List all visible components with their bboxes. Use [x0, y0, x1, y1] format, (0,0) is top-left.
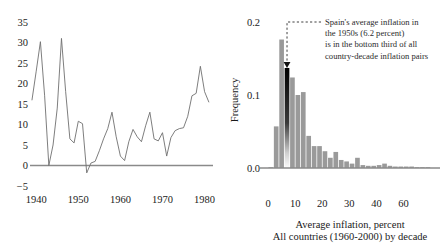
y-tick-label: −5 — [17, 181, 28, 192]
x-tick-label: 10 — [290, 198, 301, 209]
line-chart-svg: −505101520253035 19401950196019701980 — [0, 0, 222, 249]
x-tick-label: 40 — [371, 198, 382, 209]
y-tick-label: 0.1 — [247, 90, 260, 101]
histogram-bar-highlighted — [285, 68, 290, 168]
y-tick-label: 25 — [18, 58, 29, 69]
x-axis-tick-labels: 19401950196019701980 — [26, 194, 215, 205]
histogram-bar — [279, 40, 284, 168]
panel-spain-inflation-timeseries: −505101520253035 19401950196019701980 — [0, 0, 222, 249]
x-tick-label: 60 — [398, 198, 409, 209]
panel-all-countries-histogram: 0.00.10.2 01020304060 Frequency Average … — [222, 0, 444, 249]
histogram-bar — [323, 151, 328, 168]
x-tick-label: 1940 — [26, 194, 47, 205]
x-tick-label: 1970 — [152, 194, 173, 205]
histogram-bar — [339, 160, 344, 168]
annotation-text: Spain's average inflation inthe 1950s (6… — [325, 17, 429, 61]
annotation-line: Spain's average inflation in — [325, 17, 419, 27]
annotation-arrowhead — [284, 62, 291, 68]
x-axis-tick-labels: 01020304060 — [265, 198, 408, 209]
y-tick-label: 0.2 — [247, 17, 260, 28]
histogram-bar — [382, 164, 387, 168]
y-tick-label: 15 — [18, 99, 29, 110]
y-tick-label: 10 — [18, 119, 29, 130]
histogram-chart-svg: 0.00.10.2 01020304060 Frequency Average … — [222, 0, 444, 249]
x-tick-label: 0 — [265, 198, 270, 209]
x-axis-title: Average inflation, percent — [295, 219, 404, 230]
y-tick-label: 0.0 — [247, 163, 260, 174]
histogram-bar — [274, 126, 279, 168]
x-tick-label: 1980 — [194, 194, 215, 205]
x-tick-label: 1960 — [110, 194, 131, 205]
histogram-bar — [296, 95, 301, 168]
x-axis-subtitle: All countries (1960-2000) by decade — [273, 231, 428, 243]
y-tick-label: 30 — [18, 37, 29, 48]
histogram-bar — [344, 161, 349, 168]
y-axis-tick-labels: 0.00.10.2 — [247, 17, 260, 174]
y-tick-label: 20 — [18, 78, 29, 89]
histogram-bar — [306, 136, 311, 168]
annotation-line: country-decade inflation pairs — [325, 51, 429, 61]
histogram-bar — [290, 77, 295, 168]
x-tick-label: 1950 — [68, 194, 89, 205]
histogram-bar — [317, 146, 322, 168]
histogram-bar — [328, 158, 333, 168]
histogram-bar — [350, 164, 355, 168]
y-axis-tick-labels: −505101520253035 — [17, 17, 28, 192]
annotation-line: is in the bottom third of all — [325, 39, 418, 49]
histogram-bar — [301, 92, 306, 168]
x-tick-label: 30 — [344, 198, 355, 209]
x-tick-label: 20 — [317, 198, 328, 209]
histogram-bar — [312, 146, 317, 168]
annotation-leader-line — [287, 22, 321, 62]
histogram-bar — [333, 152, 338, 168]
figure-two-panel-inflation: −505101520253035 19401950196019701980 0.… — [0, 0, 444, 249]
annotation-line: the 1950s (6.2 percent) — [325, 28, 404, 38]
y-tick-label: 35 — [18, 17, 29, 28]
y-axis-title: Frequency — [229, 77, 240, 122]
y-tick-label: 5 — [23, 140, 28, 151]
inflation-series-line — [32, 38, 209, 172]
y-tick-label: 0 — [23, 160, 28, 171]
histogram-bar — [355, 158, 360, 168]
